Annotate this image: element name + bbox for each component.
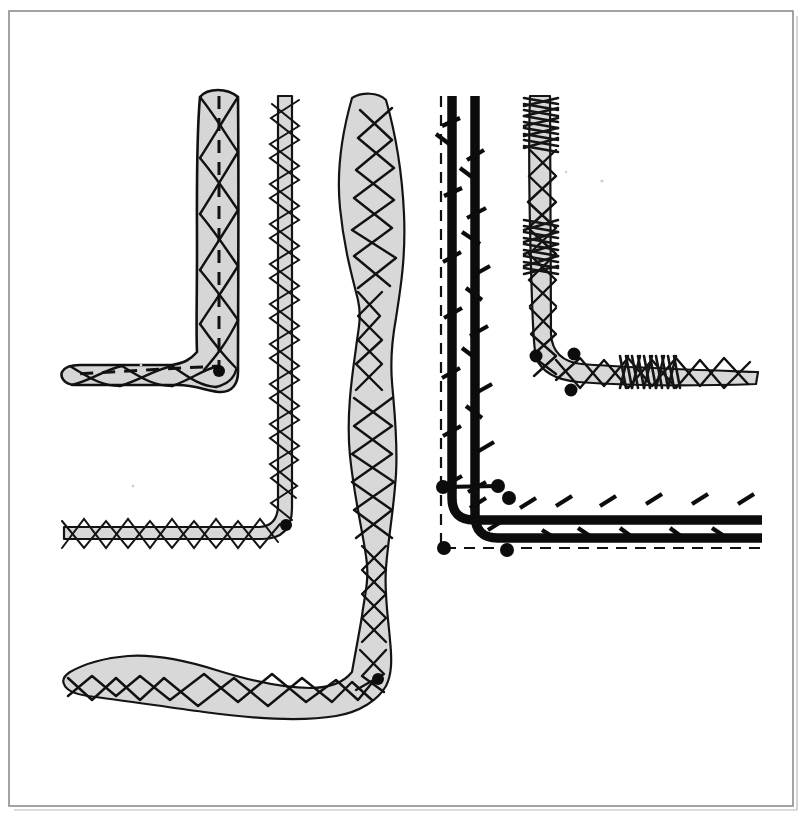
specimen-5-node-dot-2 bbox=[568, 348, 581, 361]
figure-root: Comparative diagram of five bent cord / … bbox=[0, 0, 809, 823]
diagram-canvas bbox=[0, 0, 809, 823]
specimen-3-node-dot bbox=[372, 673, 384, 685]
specimen-5-node-dot-1 bbox=[530, 350, 543, 363]
specimen-1-node-dot bbox=[213, 365, 225, 377]
specimen-4-node-dot-3 bbox=[502, 491, 516, 505]
specimen-4-node-dot-4 bbox=[437, 541, 451, 555]
specimen-4-node-dot-5 bbox=[500, 543, 514, 557]
specimen-5-node-dot-3 bbox=[565, 384, 578, 397]
specimen-2-node-dot bbox=[280, 519, 292, 531]
specimen-4-dot-connectors bbox=[443, 486, 498, 487]
